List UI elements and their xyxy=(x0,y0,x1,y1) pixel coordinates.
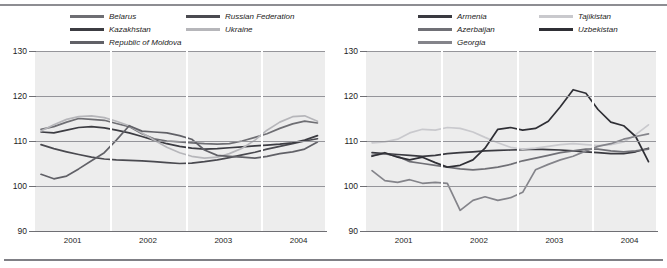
right-x-axis xyxy=(361,231,658,232)
legend-item-belarus: Belarus xyxy=(70,11,136,22)
legend-label-georgia: Georgia xyxy=(457,38,485,47)
x-axis-label-2004: 2004 xyxy=(279,236,319,245)
series-line-armenia xyxy=(372,148,648,156)
x-axis-label-2003: 2003 xyxy=(203,236,243,245)
x-axis-label-2001: 2001 xyxy=(384,236,424,245)
gridline-y-120 xyxy=(366,96,656,97)
y-axis-label-90: 90 xyxy=(336,226,358,236)
gridline-y-100 xyxy=(366,186,656,187)
gridline-y-110 xyxy=(366,141,656,142)
legend-label-russian-federation: Russian Federation xyxy=(225,12,294,21)
legend-item-azerbaijan: Azerbaijan xyxy=(418,24,495,35)
x-axis-label-2002: 2002 xyxy=(128,236,168,245)
legend-item-republic-of-moldova: Republic of Moldova xyxy=(70,37,181,48)
legend-item-tajikistan: Tajikistan xyxy=(539,11,611,22)
legend-swatch-kazakhstan xyxy=(70,28,104,31)
series-line-ukraine xyxy=(41,116,317,158)
y-axis-label-110: 110 xyxy=(5,136,27,146)
y-axis-tick-100 xyxy=(360,186,367,187)
legend-item-kazakhstan: Kazakhstan xyxy=(70,24,151,35)
year-separator-2003 xyxy=(186,51,188,231)
legend-swatch-russian-federation xyxy=(186,15,220,18)
gridline-y-110 xyxy=(35,141,325,142)
legend-label-kazakhstan: Kazakhstan xyxy=(109,25,151,34)
year-separator-2002 xyxy=(110,51,112,231)
y-axis-label-90: 90 xyxy=(5,226,27,236)
right-plot-area xyxy=(366,51,656,231)
legend-swatch-ukraine xyxy=(186,28,220,31)
y-axis-label-100: 100 xyxy=(5,181,27,191)
year-separator-2002 xyxy=(441,51,443,231)
x-axis-label-2002: 2002 xyxy=(459,236,499,245)
legend-swatch-georgia xyxy=(418,41,452,44)
y-axis-tick-110 xyxy=(29,141,36,142)
left-legend: Belarus Kazakhstan Republic of Moldova R… xyxy=(0,11,334,47)
bottom-divider xyxy=(4,259,663,261)
year-separator-2004 xyxy=(592,51,594,231)
legend-swatch-republic-of-moldova xyxy=(70,41,104,44)
left-x-axis xyxy=(30,231,327,232)
gridline-y-130 xyxy=(35,51,325,52)
legend-label-belarus: Belarus xyxy=(109,12,136,21)
legend-label-republic-of-moldova: Republic of Moldova xyxy=(109,38,181,47)
y-axis-tick-120 xyxy=(29,96,36,97)
legend-swatch-tajikistan xyxy=(539,15,573,18)
legend-label-azerbaijan: Azerbaijan xyxy=(457,25,495,34)
y-axis-tick-90 xyxy=(360,231,367,232)
year-separator-2003 xyxy=(517,51,519,231)
legend-label-armenia: Armenia xyxy=(457,12,487,21)
left-chart-panel: Belarus Kazakhstan Republic of Moldova R… xyxy=(0,0,334,258)
legend-swatch-uzbekistan xyxy=(539,28,573,31)
x-axis-label-2003: 2003 xyxy=(534,236,574,245)
left-plot-area xyxy=(35,51,325,231)
x-axis-label-2004: 2004 xyxy=(610,236,650,245)
legend-item-georgia: Georgia xyxy=(418,37,485,48)
right-chart-panel: Armenia Azerbaijan Georgia Tajikistan Uz… xyxy=(333,0,667,258)
y-axis-label-120: 120 xyxy=(336,91,358,101)
y-axis-tick-120 xyxy=(360,96,367,97)
legend-item-russian-federation: Russian Federation xyxy=(186,11,294,22)
y-axis-tick-130 xyxy=(360,51,367,52)
legend-item-armenia: Armenia xyxy=(418,11,487,22)
legend-swatch-armenia xyxy=(418,15,452,18)
y-axis-tick-100 xyxy=(29,186,36,187)
x-axis-label-2001: 2001 xyxy=(53,236,93,245)
gridline-y-100 xyxy=(35,186,325,187)
legend-item-ukraine: Ukraine xyxy=(186,24,253,35)
series-line-georgia xyxy=(372,134,648,211)
y-axis-label-120: 120 xyxy=(5,91,27,101)
legend-label-uzbekistan: Uzbekistan xyxy=(578,25,618,34)
series-line-tajikistan xyxy=(372,125,648,149)
legend-swatch-azerbaijan xyxy=(418,28,452,31)
right-legend: Armenia Azerbaijan Georgia Tajikistan Uz… xyxy=(333,11,667,47)
y-axis-label-110: 110 xyxy=(336,136,358,146)
y-axis-label-100: 100 xyxy=(336,181,358,191)
gridline-y-120 xyxy=(35,96,325,97)
legend-swatch-belarus xyxy=(70,15,104,18)
year-separator-2004 xyxy=(261,51,263,231)
y-axis-label-130: 130 xyxy=(336,46,358,56)
legend-label-tajikistan: Tajikistan xyxy=(578,12,611,21)
legend-item-uzbekistan: Uzbekistan xyxy=(539,24,618,35)
y-axis-tick-110 xyxy=(360,141,367,142)
y-axis-tick-90 xyxy=(29,231,36,232)
chart-page: Belarus Kazakhstan Republic of Moldova R… xyxy=(0,0,667,268)
gridline-y-130 xyxy=(366,51,656,52)
legend-label-ukraine: Ukraine xyxy=(225,25,253,34)
y-axis-label-130: 130 xyxy=(5,46,27,56)
y-axis-tick-130 xyxy=(29,51,36,52)
